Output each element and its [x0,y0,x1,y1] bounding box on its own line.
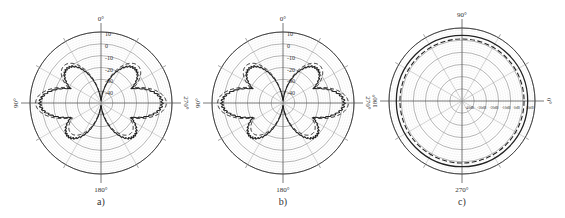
angle-label-right: 270° [182,96,190,110]
radial-tick-label: 10 [105,31,111,37]
radial-tick-label: 0 [287,43,290,49]
angle-label-left: 180° [371,94,379,108]
radial-tick-label: -40 [287,90,295,96]
radial-tick-label: 10 [287,31,293,37]
radial-tick-label: -20dB [490,106,500,110]
panel-label: c) [458,196,466,208]
radial-tick-label: -10 [287,55,295,61]
angle-label-top: 0° [280,15,287,23]
radial-tick-label: 0dB [514,106,521,110]
angle-label-left: 90° [12,98,20,108]
polar-figure: 100-10-20-30-400°180°90°270°a)100-10-20-… [0,0,565,218]
polar-plot-a: 100-10-20-30-400°180°90°270°a) [12,15,190,208]
angle-label-bottom: 180° [94,186,108,194]
polar-plot-c: -40dB-30dB-20dB-10dB0dB10dB90°270°180°0°… [371,11,553,208]
angle-label-left: 90° [194,98,202,108]
angle-label-bottom: 270° [455,186,469,194]
panel-label: b) [279,196,287,208]
angle-label-bottom: 180° [276,186,290,194]
radial-tick-label: -40dB [465,106,475,110]
radial-tick-label: -40 [105,90,113,96]
angle-label-right: 0° [545,98,553,105]
angle-label-top: 90° [457,11,467,19]
radial-tick-label: 0 [105,43,108,49]
radial-tick-label: -20 [287,67,295,73]
radial-tick-label: -10 [105,55,113,61]
radial-tick-label: -10dB [502,106,512,110]
polar-plots-canvas: 100-10-20-30-400°180°90°270°a)100-10-20-… [0,0,565,218]
radial-tick-label: -20 [105,67,113,73]
polar-plot-b: 100-10-20-30-400°180°90°270°b) [194,15,372,208]
radial-tick-label: -30dB [477,106,487,110]
panel-label: a) [97,196,105,208]
angle-label-top: 0° [98,15,105,23]
